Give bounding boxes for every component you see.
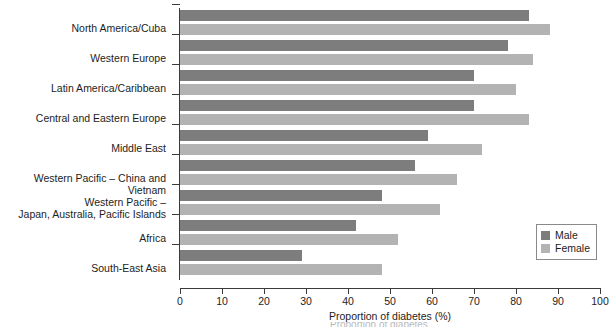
x-axis-tick [474,288,475,294]
category-label: Middle East [0,142,172,154]
legend-item-female: Female [541,242,590,255]
x-axis-tick-label: 90 [538,295,578,307]
bar-male [180,40,508,51]
bar-male [180,250,302,261]
x-axis-tick-label: 30 [286,295,326,307]
x-axis-tick [180,288,181,294]
x-axis-tick-label: 10 [202,295,242,307]
bar-female [180,204,440,215]
category-label: Western Pacific – China and Vietnam [0,172,172,196]
bar-female [180,24,550,35]
bar-male [180,130,428,141]
bar-female [180,144,482,155]
y-axis-tick [172,94,180,95]
category-label: South-East Asia [0,262,172,274]
x-axis-tick [264,288,265,294]
legend-swatch-male-icon [541,231,550,240]
x-axis-tick [558,288,559,294]
x-axis-tick-label: 60 [412,295,452,307]
bar-male [180,70,474,81]
bar-male [180,100,474,111]
caption-text: Proportion of diabetes [330,322,428,327]
x-axis-tick-label: 50 [370,295,410,307]
x-axis-tick [306,288,307,294]
x-axis-tick [600,288,601,294]
category-label: North America/Cuba [0,22,172,34]
y-axis-tick [172,184,180,185]
bar-male [180,160,415,171]
y-axis-line [179,8,180,280]
x-axis-tick [348,288,349,294]
x-axis-tick-label: 0 [160,295,200,307]
bar-female [180,54,533,65]
category-label: Central and Eastern Europe [0,112,172,124]
legend-label-male: Male [555,230,578,241]
bar-male [180,10,529,21]
x-axis-tick [222,288,223,294]
x-axis-tick [390,288,391,294]
x-axis-tick-label: 70 [454,295,494,307]
bar-female [180,84,516,95]
category-label: Western Europe [0,52,172,64]
x-axis-tick-label: 100 [580,295,616,307]
bar-female [180,174,457,185]
bar-male [180,220,356,231]
x-axis-tick-label: 40 [328,295,368,307]
y-axis-tick [172,244,180,245]
x-axis-title: Proportion of diabetes (%) [180,310,600,322]
bar-female [180,234,398,245]
y-axis-tick [172,214,180,215]
y-axis-tick [172,64,180,65]
y-axis-tick [172,124,180,125]
legend-item-male: Male [541,229,590,242]
y-axis-tick [172,154,180,155]
bar-female [180,114,529,125]
category-label: Western Pacific – Japan, Australia, Paci… [0,196,172,220]
legend-swatch-female-icon [541,244,550,253]
x-axis-tick-label: 20 [244,295,284,307]
category-label: Africa [0,232,172,244]
bar-male [180,190,382,201]
legend-label-female: Female [555,243,590,254]
bar-chart: North America/CubaWestern EuropeLatin Am… [0,0,616,327]
bar-female [180,264,382,275]
y-axis-tick [172,4,180,5]
clipped-caption: Proportion of diabetes [0,322,616,327]
x-axis-tick [516,288,517,294]
x-axis-tick-label: 80 [496,295,536,307]
y-axis-tick [172,34,180,35]
chart-legend: Male Female [536,224,597,260]
category-label: Latin America/Caribbean [0,82,172,94]
x-axis-tick [432,288,433,294]
